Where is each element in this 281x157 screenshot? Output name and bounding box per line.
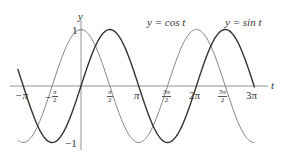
y-tick-label-1: 1	[72, 25, 78, 36]
cos-legend-label: y = cos t	[147, 17, 185, 28]
x-tick-neg-pi: −π	[15, 90, 28, 101]
x-tick-three-half-pi: 3π 2	[162, 89, 171, 104]
x-tick-pi: π	[134, 90, 140, 101]
frac-denominator: 2	[162, 97, 171, 104]
x-tick-half-pi: π 2	[107, 89, 113, 104]
x-tick-three-pi: 3π	[246, 90, 257, 101]
x-tick-two-pi: 2π	[189, 90, 200, 101]
t-axis-label: t	[271, 80, 274, 91]
x-tick-neg-half-pi: π 2	[52, 89, 58, 104]
frac-denominator: 2	[218, 97, 227, 104]
frac-denominator: 2	[107, 97, 113, 104]
x-tick-five-half-pi: 5π 2	[218, 89, 227, 104]
y-axis-label: y	[78, 11, 83, 22]
y-tick-label-neg1: −1	[65, 138, 77, 149]
frac-denominator: 2	[52, 97, 58, 104]
sin-legend-label: y = sin t	[225, 17, 261, 28]
x-tick-neg-half-pi-sign: −	[45, 92, 51, 103]
